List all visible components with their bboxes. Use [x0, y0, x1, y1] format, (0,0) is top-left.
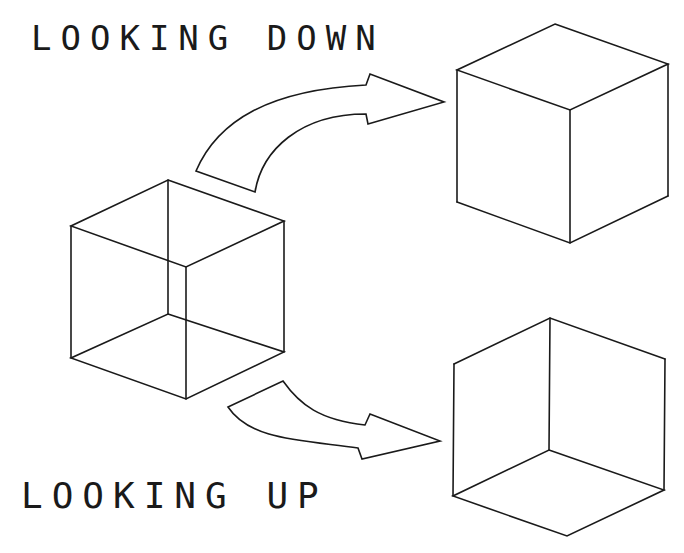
looking-up-cube — [453, 318, 665, 536]
looking-up-label: LOOKING UP — [21, 478, 328, 514]
arrow-to-looking-up — [228, 381, 440, 459]
necker-cube-diagram: LOOKING DOWN LOOKING UP — [0, 0, 684, 553]
center-necker-cube — [71, 180, 284, 399]
arrow-to-looking-down — [196, 74, 444, 192]
looking-down-label: LOOKING DOWN — [31, 21, 385, 55]
looking-down-cube — [457, 24, 668, 243]
